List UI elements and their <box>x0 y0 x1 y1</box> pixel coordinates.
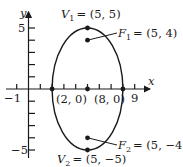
label-f1: F1= (5, 4) <box>117 26 177 42</box>
label-v1: V1= (5, 5) <box>61 7 121 23</box>
label-v2: V2= (5, −5) <box>57 152 126 167</box>
x-ticks <box>17 84 135 89</box>
y-axis-label: y <box>19 6 27 20</box>
x-tick-label-neg1: −1 <box>4 91 21 105</box>
y-tick-label-5: 5 <box>18 21 25 35</box>
point-2-0 <box>50 87 55 92</box>
label-f2: F2= (5, −4) <box>117 138 183 154</box>
point-8-0 <box>121 87 126 92</box>
point-center <box>85 87 90 92</box>
ellipse-diagram: y x −1 9 5 −5 V1= (5, 5) F1= (5, 4) (2, … <box>0 0 183 167</box>
x-axis-label: x <box>148 74 155 88</box>
label-8-0: (8, 0) <box>94 92 125 106</box>
y-tick-label-neg5: −5 <box>11 143 28 157</box>
x-tick-label-9: 9 <box>131 91 138 105</box>
label-2-0: (2, 0) <box>56 92 87 106</box>
point-v1 <box>85 26 90 31</box>
